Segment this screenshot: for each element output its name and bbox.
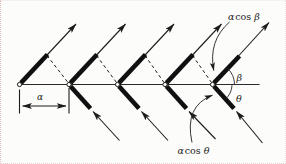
lower-arrow-2: [93, 112, 120, 141]
upper-segment-4: [167, 55, 194, 83]
dashed-link-2: [97, 56, 117, 83]
lower-projection-label: αcosθ: [178, 145, 210, 156]
angle-arcs: [225, 68, 234, 99]
lower-arrows: [93, 112, 263, 144]
upper-projection-leader-arrow: [213, 22, 230, 71]
theta-label: θ: [236, 93, 242, 104]
upper-segment-3: [119, 55, 146, 83]
lower-projection-leader-arrow: [190, 95, 212, 142]
junction-node-4: [163, 82, 167, 86]
lower-segment-2: [71, 86, 91, 108]
dashed-link-4: [193, 56, 212, 83]
figure-page: α αcosβ αcosθ β θ: [0, 0, 286, 164]
upper-segment-2: [71, 55, 98, 83]
junction-node-1: [17, 82, 21, 86]
junction-node-2: [67, 82, 71, 86]
lower-segment-3: [119, 86, 139, 108]
dimension-label-alpha: α: [37, 92, 43, 102]
lower-segment-4: [167, 86, 187, 108]
upper-segment-1: [21, 55, 48, 83]
upper-projection-label: αcosβ: [228, 11, 260, 22]
beta-label: β: [236, 72, 243, 83]
lower-segments: [71, 86, 235, 108]
lower-arrow-5: [237, 112, 263, 144]
figure-canvas: α αcosβ αcosθ β θ: [1, 1, 286, 164]
lower-arrow-4: [189, 112, 216, 140]
junction-node-3: [115, 82, 119, 86]
dashed-link-3: [145, 56, 164, 83]
upper-segments: [21, 55, 240, 83]
dashed-link-1: [47, 56, 68, 83]
lower-arrow-3: [142, 112, 169, 141]
junction-node-5: [210, 82, 214, 86]
dimension-group: α: [20, 88, 70, 114]
leader-arrows: [190, 22, 229, 143]
